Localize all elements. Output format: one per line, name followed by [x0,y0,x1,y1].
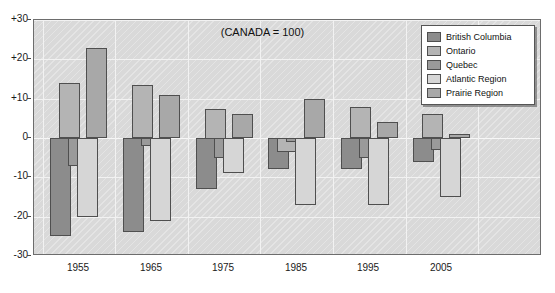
bar [205,109,226,139]
x-axis: 195519651975198519952005 [33,262,541,278]
chart-legend: British ColumbiaOntarioQuebecAtlantic Re… [421,25,535,105]
x-axis-tick-label: 1975 [212,262,234,273]
y-axis-tick-mark [27,255,31,256]
x-axis-tick-label: 1985 [285,262,307,273]
y-axis-tick-label: -10 [0,171,28,181]
y-axis-tick-label: -30 [0,250,28,260]
bar [223,138,244,173]
bar [449,134,470,138]
gridline-vertical [406,20,407,254]
legend-item-label: Ontario [446,46,476,56]
bar [304,99,325,138]
legend-item[interactable]: Prairie Region [427,86,529,100]
gridline-horizontal [34,177,540,178]
bar [150,138,171,221]
legend-item-label: Atlantic Region [446,74,507,84]
legend-item[interactable]: British Columbia [427,30,529,44]
y-axis-tick-label: -20 [0,211,28,221]
legend-item[interactable]: Atlantic Region [427,72,529,86]
gridline-vertical [188,20,189,254]
bar [159,95,180,138]
x-axis-tick-label: 1955 [67,262,89,273]
bar [377,122,398,138]
y-axis-tick-label: +30 [0,14,28,24]
y-axis-tick-mark [27,19,31,20]
y-axis-tick-label: +10 [0,93,28,103]
bar [422,114,443,138]
y-axis-tick-mark [27,98,31,99]
y-axis-tick-mark [27,216,31,217]
y-axis: +30+20+100-10-20-30 [0,19,31,255]
x-axis-tick-label: 1995 [357,262,379,273]
legend-swatch-icon [427,88,441,98]
y-axis-tick-label: 0 [0,132,28,142]
y-axis-tick-label: +20 [0,53,28,63]
gridline-vertical [115,20,116,254]
gridline-vertical [43,20,44,254]
bar [132,85,153,138]
legend-swatch-icon [427,60,441,70]
bar [440,138,461,197]
y-axis-tick-mark [27,58,31,59]
bar [368,138,389,205]
gridline-horizontal [34,20,540,21]
legend-swatch-icon [427,46,441,56]
legend-item-label: British Columbia [446,32,512,42]
chart-root: +30+20+100-10-20-30 19551965197519851995… [0,0,555,293]
gridline-horizontal [34,217,540,218]
y-axis-tick-mark [27,137,31,138]
bar [350,107,371,138]
bar [59,83,80,138]
legend-item-label: Prairie Region [446,88,503,98]
bar [295,138,316,205]
legend-item-label: Quebec [446,60,478,70]
gridline-vertical [260,20,261,254]
x-axis-tick-label: 1965 [140,262,162,273]
x-axis-tick-label: 2005 [430,262,452,273]
legend-swatch-icon [427,74,441,84]
y-axis-tick-mark [27,176,31,177]
bar [232,114,253,138]
bar [123,138,144,232]
bar [77,138,98,217]
legend-item[interactable]: Ontario [427,44,529,58]
legend-swatch-icon [427,32,441,42]
bar [86,48,107,138]
gridline-vertical [333,20,334,254]
legend-item[interactable]: Quebec [427,58,529,72]
